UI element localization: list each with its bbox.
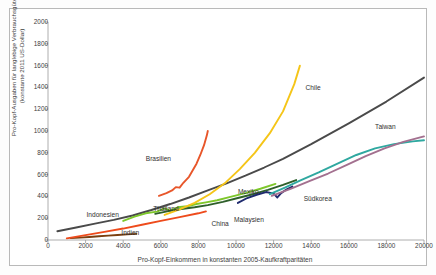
series-label-taiwan: Taiwan	[375, 123, 396, 130]
x-tick-label: 2000	[66, 242, 106, 249]
x-axis-title: Pro-Kopf-Einkommen in konstanten 2005-Ka…	[60, 256, 390, 263]
x-tick-label: 8000	[178, 242, 218, 249]
x-tick-label: 10000	[216, 242, 256, 249]
series-label-china: China	[212, 220, 229, 227]
y-tick-label: 2000	[22, 19, 48, 25]
x-tick-label: 6000	[141, 242, 181, 249]
series-label-südkorea: Südkorea	[304, 195, 332, 202]
series-line-taiwan	[272, 136, 424, 195]
y-tick-label: 800	[22, 150, 48, 156]
series-label-thailand: Thailand	[153, 205, 178, 212]
y-tick-label: 1800	[22, 41, 48, 47]
series-label-mexiko: Mexiko	[238, 188, 259, 195]
series-label-malaysien: Malaysien	[234, 216, 264, 223]
series-label-indien: Indien	[121, 229, 139, 236]
x-axis-tick-labels: 0200040006000800010000120001400016000180…	[0, 242, 436, 254]
x-tick-label: 18000	[366, 242, 406, 249]
y-tick-label: 1000	[22, 128, 48, 134]
x-tick-label: 14000	[291, 242, 331, 249]
x-tick-label: 12000	[254, 242, 294, 249]
y-tick-label: 600	[22, 172, 48, 178]
y-axis-tick-labels: 0200400600800100012001400160018002000	[18, 0, 48, 275]
x-tick-label: 16000	[329, 242, 369, 249]
y-tick-label: 1400	[22, 84, 48, 90]
x-tick-label: 20000	[404, 242, 436, 249]
y-tick-label: 200	[22, 215, 48, 221]
series-label-brasilien: Brasilien	[146, 155, 171, 162]
x-tick-label: 0	[28, 242, 68, 249]
y-tick-label: 1600	[22, 63, 48, 69]
x-tick-label: 4000	[103, 242, 143, 249]
series-label-chile: Chile	[306, 84, 321, 91]
chart-plot-area	[0, 0, 436, 275]
y-tick-label: 1200	[22, 106, 48, 112]
series-line-brasilien	[159, 131, 208, 196]
series-label-indonesien: Indonesien	[87, 211, 119, 218]
chart-figure: Pro-Kopf-Ausgaben für langlebige Verbrau…	[0, 0, 436, 275]
y-tick-label: 400	[22, 193, 48, 199]
